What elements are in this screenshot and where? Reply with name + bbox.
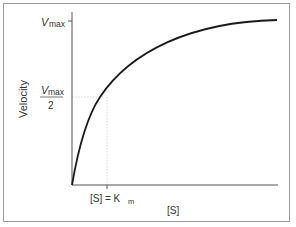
vhalf-label-den: 2	[48, 100, 54, 111]
vmax-label-sub: max	[49, 19, 66, 29]
velocity-curve	[72, 20, 277, 185]
km-label-main: [S] = K	[90, 193, 121, 204]
michaelis-menten-chart: V max V max 2 Velocity [S] = K m [S]	[0, 0, 296, 227]
vhalf-label-sub: max	[48, 87, 65, 97]
y-axis-title: Velocity	[17, 80, 29, 118]
x-axis-title: [S]	[167, 205, 179, 216]
km-label-sub: m	[128, 197, 134, 206]
